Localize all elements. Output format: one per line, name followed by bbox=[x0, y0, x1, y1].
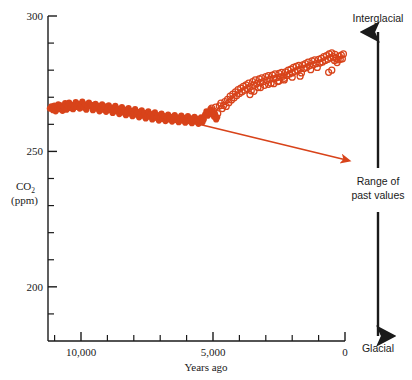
y-axis-title-main: CO bbox=[16, 180, 31, 192]
y-axis-tick-labels: 300250200 bbox=[27, 10, 44, 293]
trend-arrow-line bbox=[183, 120, 345, 159]
series-ice-core-open bbox=[209, 50, 347, 117]
range-label-line2: past values bbox=[351, 189, 404, 201]
co2-scatter-chart-figure: 300250200 10,0005,0000 Years ago CO2 (pp… bbox=[0, 0, 412, 380]
x-tick-label: 10,000 bbox=[66, 346, 97, 358]
axes-group bbox=[48, 16, 345, 341]
y-tick-label: 200 bbox=[27, 281, 44, 293]
range-label-line1: Range of bbox=[357, 175, 400, 187]
x-axis-tick-labels: 10,0005,0000 bbox=[66, 346, 348, 358]
x-axis-ticks bbox=[55, 332, 345, 341]
data-point-open bbox=[247, 92, 253, 98]
x-axis-title: Years ago bbox=[184, 361, 228, 373]
y-axis-title-co2: CO2 bbox=[16, 180, 35, 195]
y-axis-title-units: (ppm) bbox=[11, 194, 38, 207]
chart-svg: 300250200 10,0005,0000 Years ago CO2 (pp… bbox=[0, 0, 412, 380]
interglacial-label: Interglacial bbox=[353, 12, 404, 24]
x-tick-label: 5,000 bbox=[201, 346, 226, 358]
trend-arrow-annotation bbox=[183, 120, 345, 159]
y-axis-ticks bbox=[48, 16, 57, 314]
y-tick-label: 250 bbox=[27, 145, 44, 157]
range-scale-group: Interglacial Range of past values Glacia… bbox=[351, 12, 404, 354]
y-tick-label: 300 bbox=[27, 10, 44, 22]
x-tick-label: 0 bbox=[342, 346, 348, 358]
glacial-label: Glacial bbox=[362, 342, 394, 354]
